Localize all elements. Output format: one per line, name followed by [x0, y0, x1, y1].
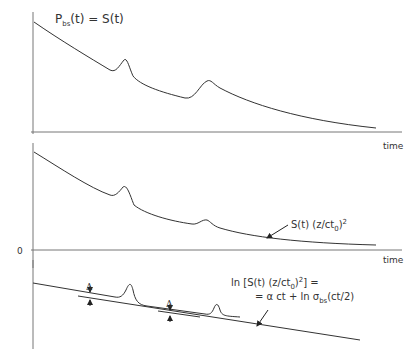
panel2-annotation-arrow — [265, 228, 268, 238]
eq2-subscript: bs — [319, 297, 327, 305]
equation-line-1: ln [S(t) (z/ct0)2] = — [231, 277, 319, 291]
panel3-annotation-arrow — [257, 310, 268, 326]
annotation-text: S(t) (z/ct — [291, 219, 334, 230]
title-rest: (t) = S(t) — [70, 12, 123, 26]
panel2-annotation: S(t) (z/ct0)2 — [291, 219, 347, 233]
panel2-zero-label: 0 — [17, 247, 23, 256]
eq1-equals: ] = — [303, 277, 318, 288]
panel2-x-label: time — [383, 256, 403, 265]
eq1-text: ln [S(t) (z/ct — [231, 277, 290, 288]
annotation-superscript: 2 — [343, 218, 347, 226]
delta-label-2: Δ — [166, 300, 173, 309]
panel3-log-signal-curve — [33, 283, 240, 317]
diagram-canvas — [0, 0, 413, 361]
panel1-signal-curve — [34, 22, 376, 128]
panel2-axes — [31, 143, 402, 268]
delta-label-1: Δ — [86, 283, 93, 292]
eq2-rest: (ct/2) — [327, 291, 354, 302]
equation-line-2: = α ct + ln σbs(ct/2) — [255, 292, 354, 305]
panel1-axes — [31, 12, 402, 134]
eq2-text: = α ct + ln σ — [255, 291, 319, 302]
panel1-x-label: time — [383, 142, 403, 151]
panel1-title: Pbs(t) = S(t) — [55, 13, 124, 28]
